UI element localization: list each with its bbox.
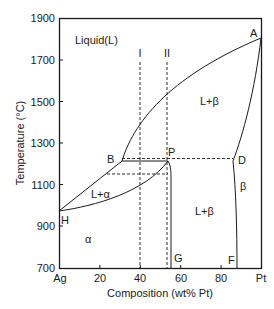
x-axis-title: Composition (wt% Pt) — [107, 287, 213, 299]
point-B: B — [107, 153, 114, 165]
point-G: G — [174, 252, 183, 264]
liquidus-alpha — [59, 161, 122, 211]
region-l-beta-lower: L+β — [195, 205, 214, 217]
peritectic-solvus — [168, 161, 171, 268]
y-tick-700: 700 — [37, 262, 55, 274]
guide-label-II: II — [164, 47, 170, 59]
x-axis-labels: Ag 20 40 60 80 Pt — [53, 272, 266, 284]
liquidus-beta — [122, 38, 261, 161]
y-tick-1300: 1300 — [31, 137, 55, 149]
x-tick-40: 40 — [134, 272, 146, 284]
y-tick-900: 900 — [37, 220, 55, 232]
y-axis-labels: 1900 1700 1500 1300 1100 900 700 — [31, 12, 55, 274]
x-tick-20: 20 — [94, 272, 106, 284]
y-tick-1100: 1100 — [31, 179, 55, 191]
x-tick-ag: Ag — [53, 272, 66, 284]
region-alpha: α — [85, 233, 92, 245]
x-tick-60: 60 — [175, 272, 187, 284]
x-tick-pt: Pt — [256, 272, 266, 284]
phase-diagram: 1900 1700 1500 1300 1100 900 700 Ag 20 4… — [0, 0, 274, 309]
y-tick-1900: 1900 — [31, 12, 55, 24]
y-axis-title: Temperature (°C) — [14, 101, 26, 185]
y-tick-1500: 1500 — [31, 96, 55, 108]
region-l-alpha: L+α — [91, 188, 111, 200]
point-H: H — [61, 214, 69, 226]
x-tick-80: 80 — [215, 272, 227, 284]
point-A: A — [250, 27, 258, 39]
point-P: P — [168, 146, 175, 158]
point-F: F — [228, 254, 235, 266]
region-l-beta-upper: L+β — [200, 95, 219, 107]
plot-frame — [60, 19, 262, 269]
guide-label-I: I — [138, 47, 141, 59]
solidus-beta — [233, 38, 261, 161]
region-liquid: Liquid(L) — [75, 34, 118, 46]
solidus-alpha — [59, 161, 168, 211]
region-beta: β — [240, 180, 246, 192]
point-D: D — [238, 154, 246, 166]
beta-solvus — [233, 161, 237, 268]
y-tick-1700: 1700 — [31, 54, 55, 66]
